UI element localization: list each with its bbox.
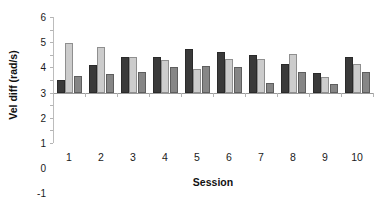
y-tick-label: 4 — [40, 62, 46, 73]
bar-group — [89, 17, 114, 143]
y-tick: 2 — [50, 67, 53, 68]
x-tick-label-session-3: 3 — [130, 151, 136, 163]
bar-series-3-session-3 — [138, 72, 146, 93]
bar-series-1-session-6 — [217, 52, 225, 93]
bar-group — [185, 17, 210, 143]
x-tick — [245, 93, 246, 97]
x-tick — [117, 93, 118, 97]
bar-series-1-session-1 — [57, 80, 65, 93]
y-tick: 5 — [50, 30, 53, 31]
x-tick — [309, 93, 310, 97]
bar-series-2-session-8 — [289, 54, 297, 92]
bar-series-1-session-9 — [313, 73, 321, 93]
x-tick-label-session-7: 7 — [258, 151, 264, 163]
bar-series-2-session-9 — [321, 77, 329, 93]
bar-series-3-session-9 — [330, 84, 338, 92]
y-tick: 1 — [50, 80, 53, 81]
bar-group — [345, 17, 370, 143]
x-axis-title: Session — [53, 176, 373, 188]
bar-series-3-session-4 — [170, 67, 178, 93]
x-tick — [181, 93, 182, 97]
y-tick: -4 — [50, 143, 53, 144]
bar-series-3-session-7 — [266, 83, 274, 93]
x-tick-label-session-1: 1 — [66, 151, 72, 163]
x-tick-label-session-10: 10 — [351, 151, 363, 163]
y-axis-line — [53, 17, 54, 143]
y-tick-label: 1 — [40, 138, 46, 149]
bar-series-1-session-5 — [185, 49, 193, 93]
bar-series-3-session-1 — [74, 76, 82, 92]
x-tick — [85, 93, 86, 97]
bar-group — [57, 17, 82, 143]
x-tick — [53, 93, 54, 97]
x-tick-label-session-4: 4 — [162, 151, 168, 163]
y-tick-label: 2 — [40, 112, 46, 123]
y-tick: -3 — [50, 130, 53, 131]
bar-series-2-session-10 — [353, 64, 361, 93]
bar-group — [313, 17, 338, 143]
bar-series-3-session-2 — [106, 74, 114, 93]
x-tick-label-session-2: 2 — [98, 151, 104, 163]
y-tick: 3 — [50, 55, 53, 56]
bar-series-1-session-10 — [345, 57, 353, 93]
y-tick: -2 — [50, 118, 53, 119]
bar-chart: Vel diff (rad/s) 6543210-1-2-3-4 1234567… — [0, 0, 379, 214]
bar-series-1-session-3 — [121, 57, 129, 92]
bar-series-2-session-4 — [161, 60, 169, 92]
x-tick-label-session-9: 9 — [322, 151, 328, 163]
x-tick — [341, 93, 342, 97]
y-tick-label: 6 — [40, 12, 46, 23]
y-tick-label: -2 — [37, 213, 46, 214]
y-tick: 4 — [50, 42, 53, 43]
y-tick: -1 — [50, 105, 53, 106]
bar-series-2-session-7 — [257, 59, 265, 92]
bar-group — [217, 17, 242, 143]
y-tick-label: 3 — [40, 87, 46, 98]
bar-series-3-session-5 — [202, 66, 210, 93]
bar-series-2-session-6 — [225, 59, 233, 93]
bar-series-1-session-2 — [89, 65, 97, 93]
x-tick-label-session-5: 5 — [194, 151, 200, 163]
bar-series-1-session-8 — [281, 64, 289, 93]
bar-series-3-session-10 — [362, 72, 370, 92]
y-tick-label: -1 — [37, 188, 46, 199]
y-axis-title-label: Vel diff (rad/s) — [7, 50, 19, 119]
bar-group — [121, 17, 146, 143]
plot-area: 6543210-1-2-3-4 — [53, 17, 373, 143]
y-axis-title: Vel diff (rad/s) — [0, 0, 26, 170]
x-tick — [149, 93, 150, 97]
bar-series-3-session-8 — [298, 72, 306, 92]
x-tick — [213, 93, 214, 97]
x-tick-label-session-6: 6 — [226, 151, 232, 163]
bar-series-2-session-3 — [129, 57, 137, 92]
bar-series-1-session-4 — [153, 57, 161, 92]
bar-series-2-session-5 — [193, 69, 201, 93]
y-tick-label: 0 — [40, 163, 46, 174]
x-tick — [373, 93, 374, 97]
bar-group — [153, 17, 178, 143]
y-tick: 6 — [50, 17, 53, 18]
x-tick — [277, 93, 278, 97]
bar-series-1-session-7 — [249, 55, 257, 92]
x-tick-label-session-8: 8 — [290, 151, 296, 163]
bar-series-3-session-6 — [234, 67, 242, 92]
bar-series-2-session-2 — [97, 47, 105, 93]
y-tick-label: 5 — [40, 37, 46, 48]
bar-group — [281, 17, 306, 143]
bar-series-2-session-1 — [65, 43, 73, 92]
bar-group — [249, 17, 274, 143]
